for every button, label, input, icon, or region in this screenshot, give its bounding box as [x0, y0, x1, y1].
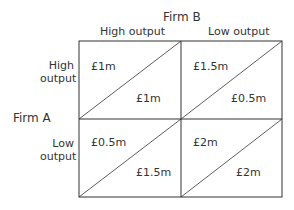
payoff-ll-firm-a: £2m: [193, 136, 218, 149]
column-player-label: Firm B: [163, 10, 201, 24]
payoff-lh-firm-a: £0.5m: [91, 136, 126, 149]
cell-diagonal: [79, 119, 181, 197]
row-player-label: Firm A: [13, 111, 51, 125]
row-header-low-line1: Low: [40, 137, 74, 150]
row-header-high: High output: [40, 59, 74, 85]
cell-diagonal: [181, 41, 282, 119]
cell-diagonal: [181, 119, 282, 197]
row-header-high-line1: High: [40, 59, 74, 72]
row-header-low-line2: output: [40, 150, 74, 163]
payoff-hh-firm-a: £1m: [91, 60, 116, 73]
column-header-low: Low output: [208, 25, 269, 38]
payoff-ll-firm-b: £2m: [236, 166, 261, 179]
payoff-hl-firm-b: £0.5m: [231, 92, 266, 105]
cell-diagonal: [79, 41, 181, 119]
payoff-lh-firm-b: £1.5m: [136, 166, 171, 179]
row-header-high-line2: output: [40, 72, 74, 85]
payoff-hh-firm-b: £1m: [136, 92, 161, 105]
column-header-high: High output: [100, 25, 165, 38]
payoff-hl-firm-a: £1.5m: [193, 60, 228, 73]
row-header-low: Low output: [40, 137, 74, 163]
